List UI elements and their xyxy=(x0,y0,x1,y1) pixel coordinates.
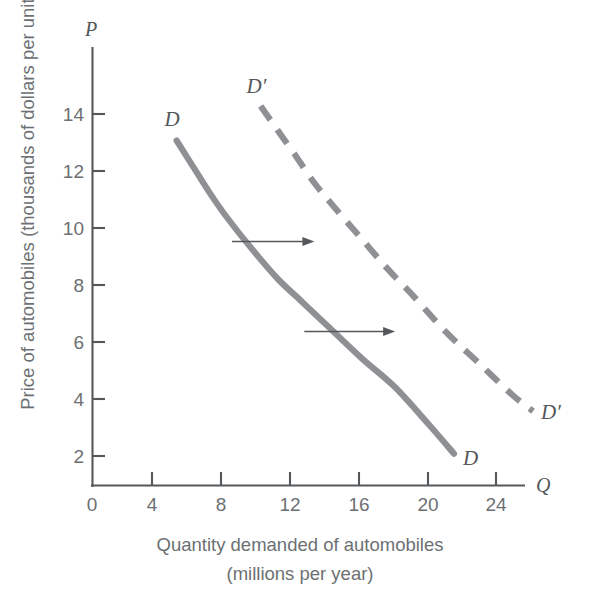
y-ticklabel-4: 4 xyxy=(73,389,84,410)
x-ticklabel-0: 0 xyxy=(87,494,98,515)
y-ticklabel-6: 6 xyxy=(73,332,84,353)
y-ticklabel-10: 10 xyxy=(63,218,84,239)
shift-arrow-upper-head xyxy=(302,237,314,246)
axis-group xyxy=(92,48,524,486)
curve-label-D-top: D xyxy=(164,107,180,131)
x-axis-variable-Q: Q xyxy=(536,474,551,496)
x-ticklabel-24: 24 xyxy=(485,494,507,515)
x-ticklabel-group: 0 4 8 12 16 20 24 xyxy=(87,494,507,515)
shift-arrow-lower xyxy=(304,327,395,336)
x-ticklabel-4: 4 xyxy=(147,494,158,515)
y-tick-group xyxy=(92,114,105,456)
y-ticklabel-12: 12 xyxy=(63,161,84,182)
curve-label-D-prime-top: D′ xyxy=(246,74,267,98)
curve-label-D-bottom: D xyxy=(462,446,478,470)
y-ticklabel-8: 8 xyxy=(73,275,84,296)
x-tick-group xyxy=(152,472,496,486)
x-ticklabel-16: 16 xyxy=(348,494,369,515)
curve-label-D-prime-bottom: D′ xyxy=(540,400,561,424)
x-axis-title-line1: Quantity demanded of automobiles xyxy=(157,534,444,555)
y-axis-variable-P: P xyxy=(84,18,97,40)
y-ticklabel-2: 2 xyxy=(73,446,84,467)
shift-arrow-lower-head xyxy=(383,327,395,336)
x-axis-title-line2: (millions per year) xyxy=(226,563,373,584)
x-ticklabel-20: 20 xyxy=(417,494,438,515)
x-ticklabel-8: 8 xyxy=(216,494,227,515)
x-ticklabel-12: 12 xyxy=(279,494,300,515)
figure-canvas: 14 12 10 8 6 4 2 0 4 8 12 16 20 24 P xyxy=(0,0,597,600)
y-ticklabel-14: 14 xyxy=(63,104,85,125)
demand-curve-chart: 14 12 10 8 6 4 2 0 4 8 12 16 20 24 P xyxy=(0,0,597,600)
demand-curve-D-prime xyxy=(261,106,533,411)
y-ticklabel-group: 14 12 10 8 6 4 2 xyxy=(63,104,85,467)
